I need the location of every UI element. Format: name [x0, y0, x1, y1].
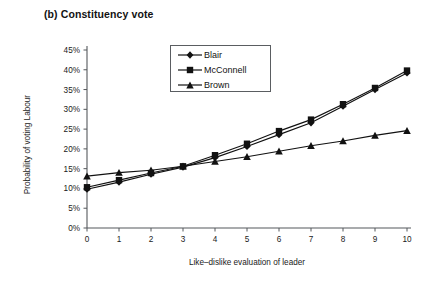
x-tick-label: 10 [402, 235, 412, 244]
data-point-marker [244, 141, 250, 147]
data-point-marker [404, 67, 410, 73]
legend-label-mcconnell: McConnell [204, 65, 247, 75]
y-tick-label: 15% [64, 165, 80, 174]
y-tick-label: 35% [64, 86, 80, 95]
series-brown [83, 127, 411, 179]
legend-item-mcconnell: McConnell [177, 62, 247, 77]
y-tick-label: 10% [64, 184, 80, 193]
triangle-marker-icon [177, 79, 203, 91]
data-point-marker [403, 127, 411, 134]
data-point-marker [116, 177, 122, 183]
y-tick-label: 40% [64, 66, 80, 75]
legend-label-blair: Blair [204, 50, 222, 60]
data-point-marker [84, 184, 90, 190]
y-tick-label: 0% [68, 224, 80, 233]
legend-item-blair: Blair [177, 47, 222, 62]
chart-legend: Blair McConnell Brown [170, 45, 271, 92]
y-tick-label: 20% [64, 145, 80, 154]
x-tick-label: 3 [181, 235, 186, 244]
x-tick-label: 2 [149, 235, 154, 244]
y-axis-ticks: 0%5%10%15%20%25%30%35%40%45% [64, 46, 87, 233]
x-tick-label: 0 [85, 235, 90, 244]
square-marker-icon [177, 64, 203, 76]
x-tick-label: 1 [117, 235, 122, 244]
x-tick-label: 7 [309, 235, 314, 244]
y-tick-label: 45% [64, 46, 80, 55]
plot-area: 0%5%10%15%20%25%30%35%40%45% 01234567891… [0, 0, 424, 286]
x-axis-ticks: 012345678910 [85, 228, 412, 244]
y-tick-label: 30% [64, 105, 80, 114]
x-tick-label: 4 [213, 235, 218, 244]
data-point-marker [212, 152, 218, 158]
data-point-marker [276, 128, 282, 134]
data-point-marker [372, 85, 378, 91]
diamond-marker-icon [177, 49, 203, 61]
x-tick-label: 8 [341, 235, 346, 244]
data-point-marker [308, 116, 314, 122]
y-tick-label: 5% [68, 204, 80, 213]
x-tick-label: 5 [245, 235, 250, 244]
data-point-marker [340, 101, 346, 107]
y-tick-label: 25% [64, 125, 80, 134]
x-tick-label: 9 [373, 235, 378, 244]
legend-item-brown: Brown [177, 77, 230, 92]
legend-label-brown: Brown [204, 80, 230, 90]
x-tick-label: 6 [277, 235, 282, 244]
chart-figure: (b) Constituency vote Probability of vot… [0, 0, 424, 286]
